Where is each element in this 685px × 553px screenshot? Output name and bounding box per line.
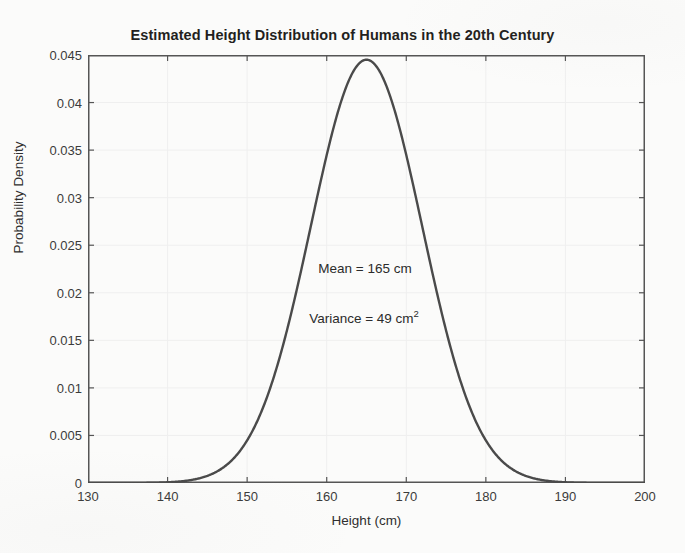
x-tick-label: 160 <box>297 489 357 504</box>
x-tick-label: 140 <box>138 489 198 504</box>
y-tick-label: 0.03 <box>18 190 82 205</box>
x-axis-label: Height (cm) <box>88 513 645 528</box>
x-tick-label: 150 <box>217 489 277 504</box>
y-tick-label: 0.04 <box>18 95 82 110</box>
y-tick-label: 0.015 <box>18 333 82 348</box>
x-tick-label: 200 <box>615 489 675 504</box>
y-tick-label: 0.01 <box>18 380 82 395</box>
annotation-variance-superscript: 2 <box>414 308 419 319</box>
chart-figure: Estimated Height Distribution of Humans … <box>0 0 685 553</box>
y-tick-label: 0.02 <box>18 285 82 300</box>
annotation-variance-text: Variance = 49 cm <box>309 311 413 326</box>
y-tick-label: 0.035 <box>18 143 82 158</box>
x-tick-label: 170 <box>376 489 436 504</box>
y-tick-label: 0.005 <box>18 428 82 443</box>
chart-title: Estimated Height Distribution of Humans … <box>0 27 685 43</box>
y-tick-label: 0.025 <box>18 238 82 253</box>
x-axis-tick-labels: 130140150160170180190200 <box>88 489 645 509</box>
x-tick-label: 180 <box>456 489 516 504</box>
annotation-mean: Mean = 165 cm <box>318 261 411 276</box>
annotation-variance: Variance = 49 cm2 <box>309 311 419 326</box>
y-axis-label: Probability Density <box>11 118 26 278</box>
y-tick-label: 0.045 <box>18 48 82 63</box>
x-tick-label: 190 <box>535 489 595 504</box>
x-tick-label: 130 <box>58 489 118 504</box>
